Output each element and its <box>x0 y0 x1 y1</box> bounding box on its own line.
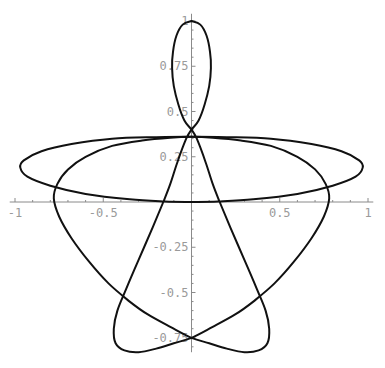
parametric-plot: -1-0.50.5110.750.50.25-0.25-0.5-0.75 <box>0 0 385 368</box>
y-tick-label: 0.25 <box>160 150 189 164</box>
curve-half-b <box>54 21 363 352</box>
y-tick-label: 0.75 <box>160 59 189 73</box>
tick-labels: -1-0.50.5110.750.50.25-0.25-0.5-0.75 <box>8 14 372 345</box>
y-tick-label: 0.5 <box>167 105 189 119</box>
x-tick-label: 0.5 <box>269 206 291 220</box>
y-tick-label: -0.25 <box>152 240 188 254</box>
y-tick-label: -0.5 <box>160 286 189 300</box>
x-tick-label: 1 <box>364 206 371 220</box>
x-tick-label: -1 <box>8 206 22 220</box>
x-tick-label: -0.5 <box>89 206 118 220</box>
